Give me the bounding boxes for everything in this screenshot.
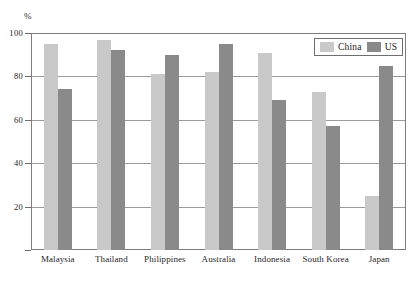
y-axis-tick-label: 80 <box>1 71 23 81</box>
legend-swatch-us <box>367 42 381 52</box>
y-axis-tick-label-wrap: 80 <box>0 71 23 81</box>
y-axis-tick-label-wrap: 60 <box>0 115 23 125</box>
legend-item: US <box>367 42 398 52</box>
bar-group <box>205 33 233 250</box>
y-axis-tick-label: 60 <box>1 115 23 125</box>
x-axis-label: Malaysia <box>31 254 85 264</box>
y-axis-unit-label: % <box>24 11 32 21</box>
bar-us <box>58 89 72 250</box>
y-axis-tick-label-wrap: 100 <box>0 28 23 38</box>
bar-us <box>379 66 393 250</box>
bar-china <box>365 196 379 250</box>
bar-group <box>365 33 393 250</box>
legend-label: US <box>385 42 398 52</box>
bar-china <box>205 72 219 250</box>
x-axis-label: Indonesia <box>245 254 299 264</box>
legend-label: China <box>338 42 362 52</box>
bar-group <box>312 33 340 250</box>
bar-us <box>272 100 286 250</box>
y-axis-tick-label: 20 <box>1 202 23 212</box>
x-axis-label: Australia <box>192 254 246 264</box>
bar-group <box>258 33 286 250</box>
x-axis-label: Philippines <box>138 254 192 264</box>
bar-chart: % 20406080100 MalaysiaThailandPhilippine… <box>0 0 414 285</box>
bar-group <box>151 33 179 250</box>
bar-group <box>97 33 125 250</box>
bars-layer <box>31 33 406 250</box>
x-axis-labels: MalaysiaThailandPhilippinesAustraliaIndo… <box>31 254 406 270</box>
bar-group <box>44 33 72 250</box>
y-axis-tick-label-wrap: 20 <box>0 202 23 212</box>
bar-china <box>151 74 165 250</box>
x-axis-label: Thailand <box>85 254 139 264</box>
legend-item: China <box>320 42 362 52</box>
y-axis-tick-label-wrap: 40 <box>0 158 23 168</box>
legend-swatch-china <box>320 42 334 52</box>
y-axis-tick-label: 100 <box>1 28 23 38</box>
bar-us <box>165 55 179 250</box>
bar-china <box>44 44 58 250</box>
y-axis-tick-label: 40 <box>1 158 23 168</box>
chart-legend: ChinaUS <box>314 38 403 56</box>
bar-us <box>219 44 233 250</box>
bar-china <box>97 40 111 250</box>
y-tick-0 <box>25 250 31 251</box>
x-axis-label: Japan <box>352 254 406 264</box>
cut-off-title-text <box>0 0 414 9</box>
bar-us <box>111 50 125 250</box>
bar-china <box>312 92 326 250</box>
x-axis-label: South Korea <box>299 254 353 264</box>
bar-us <box>326 126 340 250</box>
bar-china <box>258 53 272 250</box>
